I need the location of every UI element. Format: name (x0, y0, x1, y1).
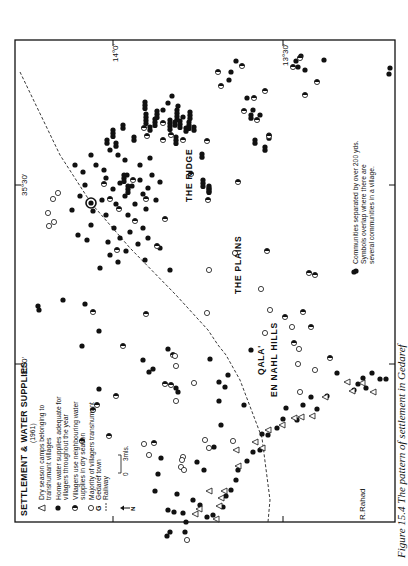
filled-circle-symbol (252, 141, 257, 146)
filled-circle-symbol (125, 190, 130, 195)
half-circle-symbol (205, 197, 210, 202)
filled-circle-symbol (147, 128, 152, 133)
legend-item-5-line-1: Gedaref town (95, 459, 102, 500)
filled-circle-symbol (248, 116, 253, 121)
legend-year: (1961) (29, 423, 37, 443)
filled-circle-symbol (250, 449, 255, 454)
filled-circle-symbol (183, 519, 188, 524)
filled-circle-symbol (241, 402, 246, 407)
filled-circle-symbol (143, 206, 148, 211)
half-circle-symbol (282, 314, 287, 319)
half-circle-symbol (218, 83, 223, 88)
filled-circle-symbol (206, 189, 211, 194)
filled-circle-symbol (283, 405, 288, 410)
half-circle-symbol (151, 440, 156, 445)
filled-circle-symbol (182, 529, 187, 534)
filled-circle-symbol (204, 514, 209, 519)
filled-circle-symbol (262, 148, 267, 153)
filled-circle-symbol (93, 162, 98, 167)
label-the-ridge: THE RIDGE (184, 149, 194, 202)
open-circle-symbol (191, 380, 196, 385)
triangle-symbol (192, 511, 198, 517)
half-circle-symbol (162, 216, 167, 221)
filled-circle-symbol (77, 193, 82, 198)
filled-circle-symbol (115, 259, 120, 264)
scale-zero: 0 (122, 472, 129, 476)
filled-circle-symbol (115, 152, 120, 157)
filled-circle-symbol (145, 235, 150, 240)
filled-circle-symbol (314, 406, 319, 411)
filled-circle-symbol (280, 416, 285, 421)
triangle-symbol (206, 488, 212, 494)
half-circle-symbol (130, 177, 135, 182)
filled-circle-symbol (218, 422, 223, 427)
note-line-1: Communities separated by over 200 yds. (352, 140, 360, 264)
filled-circle-symbol (369, 370, 374, 375)
open-circle-symbol (46, 223, 51, 228)
open-circle-symbol (297, 389, 302, 394)
filled-circle-symbol (228, 69, 233, 74)
filled-circle-symbol (35, 303, 40, 308)
settlement-map: 14°0' 13°30' 35°0' 35°30' THE RIDGE THE … (0, 0, 408, 566)
filled-circle-symbol (99, 197, 104, 202)
half-circle-symbol (302, 92, 307, 97)
triangle-symbol (344, 379, 350, 385)
half-circle-symbol (90, 309, 95, 314)
filled-circle-symbol (244, 458, 249, 463)
half-circle-symbol (160, 120, 165, 125)
filled-circle-symbol (140, 191, 145, 196)
filled-circle-symbol (257, 112, 262, 117)
half-circle-symbol (101, 181, 106, 186)
open-circle-symbol (206, 267, 211, 272)
filled-circle-symbol (248, 347, 253, 352)
filled-circle-symbol (90, 208, 95, 213)
filled-circle-symbol (140, 357, 145, 362)
open-circle-symbol (173, 398, 178, 403)
filled-circle-symbol (75, 232, 80, 237)
filled-circle-symbol (165, 507, 170, 512)
half-circle-symbol (141, 125, 146, 130)
filled-circle-symbol (122, 157, 127, 162)
half-circle-symbol (114, 247, 119, 252)
filled-circle-symbol (207, 356, 212, 361)
filled-circle-symbol (244, 95, 249, 100)
filled-circle-symbol (171, 509, 176, 514)
triangle-symbol (233, 447, 239, 453)
label-qala: QALA' (256, 345, 266, 375)
half-circle-symbol (154, 243, 159, 248)
filled-circle-symbol (190, 497, 195, 502)
filled-circle-symbol (321, 57, 326, 62)
overlap-note: Communities separated by over 200 yds. S… (351, 140, 376, 274)
filled-circle-symbol (157, 179, 162, 184)
filled-circle-symbol (194, 459, 199, 464)
open-circle-symbol (296, 346, 301, 351)
filled-circle-symbol (334, 370, 339, 375)
filled-circle-symbol (225, 372, 230, 377)
open-circle-symbol (181, 467, 186, 472)
half-circle-symbol (144, 133, 149, 138)
half-circle-symbol (160, 137, 165, 142)
filled-circle-symbol (167, 529, 172, 534)
legend-item-1-line-2: transhumant villages (45, 437, 53, 500)
svg-text:N: N (130, 507, 136, 511)
half-circle-symbol (312, 272, 317, 277)
filled-circle-symbol (199, 155, 204, 160)
open-circle-icon (88, 505, 93, 510)
filled-circle-symbol (173, 141, 178, 146)
filled-circle-symbol (82, 182, 87, 187)
open-circle-symbol (206, 445, 211, 450)
filled-circle-symbol (149, 172, 154, 177)
half-circle-symbol (162, 381, 167, 386)
filled-circle-symbol (216, 398, 221, 403)
half-circle-symbol (306, 270, 311, 275)
g-symbol-icon: G (95, 505, 102, 511)
filled-circle-symbol (300, 402, 305, 407)
filled-circle-symbol (180, 510, 185, 515)
filled-circle-symbol (150, 366, 155, 371)
filled-circle-symbol (88, 222, 93, 227)
filled-circle-symbol (295, 64, 300, 69)
filled-circle-symbol (84, 237, 89, 242)
note-line-2: Symbols overlap where there are (360, 164, 368, 264)
gedaref-town-marker (86, 198, 96, 208)
open-circle-symbol (184, 537, 189, 542)
